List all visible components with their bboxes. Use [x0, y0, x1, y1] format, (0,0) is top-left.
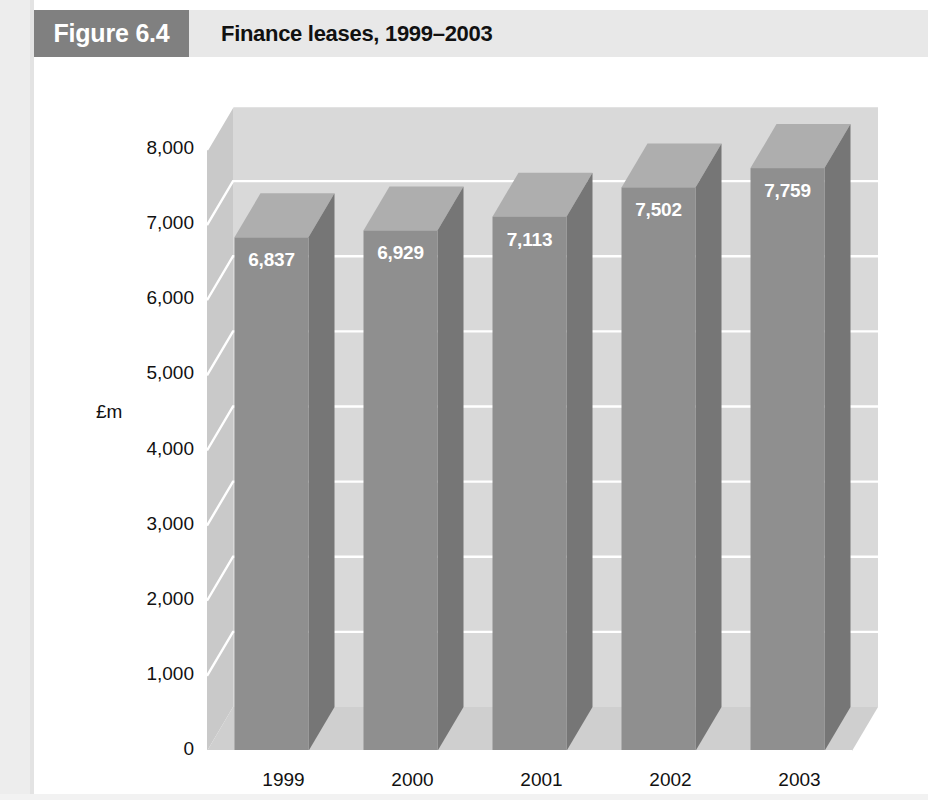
figure-number-badge: Figure 6.4 — [34, 10, 189, 57]
bar-front-face — [364, 230, 438, 751]
bar-side-face — [438, 186, 464, 751]
y-axis-tick-label: 6,000 — [34, 287, 194, 309]
y-axis-tick-label: 3,000 — [34, 513, 194, 535]
x-axis-category-label: 2001 — [482, 769, 602, 791]
bar-column — [235, 193, 335, 751]
page-margin-bottom — [0, 794, 928, 800]
bar-front-face — [235, 237, 309, 751]
y-axis-tick-label: 4,000 — [34, 438, 194, 460]
y-axis-unit-label: £m — [96, 401, 122, 423]
page-margin-left — [0, 0, 34, 800]
bar-front-face — [751, 168, 825, 751]
y-axis-tick-label: 7,000 — [34, 212, 194, 234]
x-axis-category-label: 1999 — [224, 769, 344, 791]
figure-header: Figure 6.4 Finance leases, 1999–2003 — [34, 10, 928, 57]
figure-title: Finance leases, 1999–2003 — [221, 10, 492, 57]
chart-area: 8,0007,0006,0005,0004,0003,0002,0001,000… — [34, 57, 928, 794]
x-axis-category-label: 2002 — [611, 769, 731, 791]
bar-value-label: 7,759 — [738, 180, 838, 202]
bar-side-face — [567, 173, 593, 751]
bar-front-face — [493, 217, 567, 751]
y-axis-tick-label: 5,000 — [34, 362, 194, 384]
bar-side-face — [825, 124, 851, 751]
x-axis-category-label: 2000 — [353, 769, 473, 791]
y-axis-tick-label: 1,000 — [34, 663, 194, 685]
bar-value-label: 7,113 — [480, 229, 580, 251]
bar-column — [364, 186, 464, 751]
bar-column — [622, 143, 722, 751]
figure-card: Figure 6.4 Finance leases, 1999–2003 8,0… — [34, 10, 928, 794]
y-axis-tick-label: 8,000 — [34, 137, 194, 159]
y-axis-tick-label: 0 — [34, 738, 194, 760]
bar-value-label: 6,837 — [222, 249, 322, 271]
bar-column — [493, 173, 593, 751]
bar-value-label: 7,502 — [609, 199, 709, 221]
y-axis-tick-label: 2,000 — [34, 588, 194, 610]
bar-column — [751, 124, 851, 751]
bar-value-label: 6,929 — [351, 242, 451, 264]
x-axis-category-label: 2003 — [740, 769, 860, 791]
bar-side-face — [309, 193, 335, 751]
bar-side-face — [696, 143, 722, 751]
bar-front-face — [622, 187, 696, 751]
